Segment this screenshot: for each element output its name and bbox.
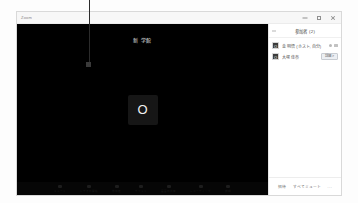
panel-footer: 招待 すべてミュート ... xyxy=(269,177,341,195)
list-item[interactable]: O 金 明悟 (ホスト, 自分) xyxy=(269,40,341,51)
meeting-title: 新 学館 xyxy=(17,36,268,43)
participant-list: O 金 明悟 (ホスト, 自分) O 大塚 佳奈 詳細 > xyxy=(269,38,341,177)
toolbar-video-button[interactable]: ビデオの開始 xyxy=(80,185,98,193)
mic-muted-icon xyxy=(329,44,332,47)
more-icon xyxy=(226,185,230,188)
camera-icon xyxy=(87,185,91,188)
toolbar-label: ミュート xyxy=(54,189,66,193)
participants-panel: 参加者 (2) O 金 明悟 (ホスト, 自分) O 大塚 佳奈 詳細 > xyxy=(268,24,341,195)
zoom-app-window: Zoom 新 学館 O ミュート xyxy=(16,11,342,196)
callout-endpoint-marker xyxy=(86,62,91,67)
more-details-button[interactable]: 詳細 > xyxy=(321,53,338,60)
toolbar-chat-button[interactable]: チャット xyxy=(135,185,147,193)
participant-name: 金 明悟 (ホスト, 自分) xyxy=(282,43,326,49)
chevron-left-icon[interactable] xyxy=(272,30,276,31)
window-title: Zoom xyxy=(17,15,32,20)
record-icon xyxy=(199,185,203,188)
close-icon xyxy=(330,15,335,20)
participant-status-icons xyxy=(329,44,338,47)
window-controls xyxy=(301,12,339,23)
active-speaker-tile[interactable]: O xyxy=(128,95,158,125)
chat-icon xyxy=(139,185,143,188)
panel-header: 参加者 (2) xyxy=(269,24,341,38)
window-body: 新 学館 O ミュート ビデオの開始 参加者 xyxy=(17,24,341,195)
window-title-bar: Zoom xyxy=(17,12,341,24)
participants-icon xyxy=(115,185,119,188)
callout-leader-line xyxy=(89,0,90,66)
close-button[interactable] xyxy=(329,13,336,22)
mute-all-button[interactable]: すべてミュート xyxy=(293,184,321,189)
avatar: O xyxy=(272,42,279,49)
video-stage[interactable]: 新 学館 O ミュート ビデオの開始 参加者 xyxy=(17,24,268,195)
maximize-icon xyxy=(317,16,321,20)
toolbar-label: 参加者 xyxy=(112,189,121,193)
toolbar-participants-button[interactable]: 参加者 xyxy=(112,185,121,193)
more-options-button[interactable]: ... xyxy=(328,184,333,189)
avatar: O xyxy=(272,53,279,60)
meeting-toolbar: ミュート ビデオの開始 参加者 チャット 画面の共有 xyxy=(17,182,268,195)
toolbar-more-button[interactable]: 詳細 xyxy=(225,185,231,193)
toolbar-label: レコーディング xyxy=(190,189,211,193)
toolbar-label: チャット xyxy=(135,189,147,193)
minimize-icon xyxy=(302,17,307,18)
video-off-icon xyxy=(334,44,338,47)
list-item[interactable]: O 大塚 佳奈 詳細 > xyxy=(269,51,341,62)
participant-name: 大塚 佳奈 xyxy=(282,54,318,60)
invite-button[interactable]: 招待 xyxy=(278,184,286,189)
toolbar-share-button[interactable]: 画面の共有 xyxy=(161,185,176,193)
microphone-icon xyxy=(58,185,62,188)
toolbar-record-button[interactable]: レコーディング xyxy=(190,185,211,193)
panel-title: 参加者 (2) xyxy=(269,28,341,34)
toolbar-label: 詳細 xyxy=(225,189,231,193)
avatar: O xyxy=(137,103,147,116)
toolbar-label: 画面の共有 xyxy=(161,189,176,193)
minimize-button[interactable] xyxy=(301,13,308,22)
toolbar-label: ビデオの開始 xyxy=(80,189,98,193)
share-icon xyxy=(167,185,171,188)
toolbar-mute-button[interactable]: ミュート xyxy=(54,185,66,193)
maximize-button[interactable] xyxy=(315,13,322,22)
